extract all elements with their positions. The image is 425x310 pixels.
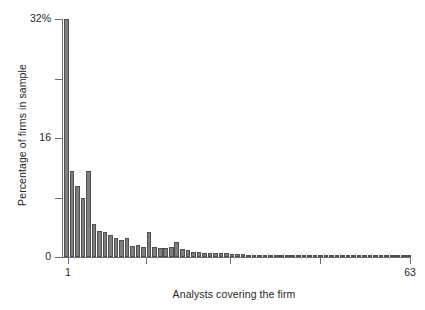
- histogram-bar: [191, 252, 196, 257]
- histogram-bar: [340, 255, 345, 257]
- histogram-bar: [141, 247, 146, 257]
- x-axis-tick-label: 1: [65, 266, 71, 278]
- histogram-bar: [268, 255, 273, 257]
- histogram-bar: [257, 255, 262, 257]
- histogram-bar: [169, 247, 174, 257]
- histogram-bar: [174, 242, 179, 257]
- histogram-bar: [406, 255, 411, 257]
- y-axis-tick-label: 16: [39, 131, 51, 143]
- y-axis-title: Percentage of firms in sample: [11, 5, 33, 265]
- histogram-bar: [219, 253, 224, 257]
- histogram-bar: [224, 253, 229, 257]
- histogram-bar: [302, 255, 307, 257]
- histogram-bar: [163, 248, 168, 257]
- histogram-bar: [64, 19, 69, 257]
- y-axis-tick-label: 32%: [30, 12, 51, 24]
- histogram-bar: [97, 231, 102, 257]
- histogram-bar: [197, 252, 202, 257]
- histogram-bar: [373, 255, 378, 257]
- histogram-bar: [202, 253, 207, 257]
- histogram-bar: [274, 255, 279, 257]
- histogram-bar: [230, 254, 235, 257]
- histogram-bar: [108, 235, 113, 257]
- histogram-bar: [379, 255, 384, 257]
- histogram-bar: [235, 254, 240, 257]
- histogram-bar: [335, 255, 340, 257]
- histogram-bar: [213, 253, 218, 257]
- histogram-figure: Percentage of firms in sample Analysts c…: [0, 0, 425, 310]
- histogram-bar: [75, 186, 80, 257]
- histogram-bar: [119, 240, 124, 257]
- histogram-bar: [114, 238, 119, 257]
- x-axis-tick: [68, 257, 69, 264]
- histogram-bar: [279, 255, 284, 257]
- histogram-bar: [351, 255, 356, 257]
- histogram-bar: [180, 249, 185, 257]
- histogram-bar: [313, 255, 318, 257]
- histogram-bar: [92, 224, 97, 257]
- y-axis-minor-tick: [55, 79, 62, 80]
- histogram-bar: [70, 171, 75, 257]
- histogram-bar: [241, 254, 246, 257]
- y-axis-tick: [55, 257, 62, 258]
- histogram-bar: [384, 255, 389, 257]
- x-axis-tick: [410, 257, 411, 264]
- histogram-bar: [186, 250, 191, 257]
- x-axis-tick-label: 63: [404, 266, 416, 278]
- histogram-bar: [86, 171, 91, 257]
- histogram-bar: [147, 232, 152, 257]
- x-axis-tick: [320, 257, 321, 264]
- y-axis-minor-tick: [55, 198, 62, 199]
- histogram-bar: [307, 255, 312, 257]
- histogram-bar: [125, 238, 130, 257]
- histogram-bar: [390, 255, 395, 257]
- histogram-bar: [329, 255, 334, 257]
- histogram-bar: [263, 255, 268, 257]
- y-axis-tick-label: 0: [45, 250, 51, 262]
- x-axis-tick: [230, 257, 231, 264]
- histogram-bar: [296, 255, 301, 257]
- x-axis-line: [62, 257, 410, 258]
- histogram-bar: [290, 255, 295, 257]
- y-axis-tick: [55, 19, 62, 20]
- histogram-bar: [324, 255, 329, 257]
- histogram-bar: [208, 253, 213, 257]
- x-axis-tick: [146, 257, 147, 264]
- plot-area: [62, 19, 410, 257]
- histogram-bar: [357, 255, 362, 257]
- histogram-bar: [81, 198, 86, 258]
- histogram-bar: [246, 255, 251, 257]
- y-axis-tick: [55, 138, 62, 139]
- histogram-bar: [252, 255, 257, 257]
- histogram-bar: [368, 255, 373, 257]
- histogram-bar: [395, 255, 400, 257]
- histogram-bar: [318, 255, 323, 257]
- histogram-bar: [158, 248, 163, 257]
- histogram-bar: [285, 255, 290, 257]
- histogram-bar: [401, 255, 406, 257]
- histogram-bar: [152, 247, 157, 257]
- x-axis-title: Analysts covering the firm: [68, 288, 400, 300]
- histogram-bar: [136, 245, 141, 257]
- histogram-bar: [130, 246, 135, 257]
- histogram-bar: [346, 255, 351, 257]
- histogram-bar: [362, 255, 367, 257]
- histogram-bar: [103, 232, 108, 257]
